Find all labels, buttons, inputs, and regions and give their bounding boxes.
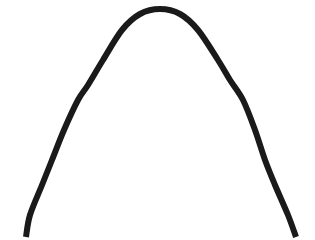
chart-background — [0, 0, 315, 240]
arch-curve-canvas — [0, 0, 315, 240]
figure-root — [0, 0, 315, 240]
